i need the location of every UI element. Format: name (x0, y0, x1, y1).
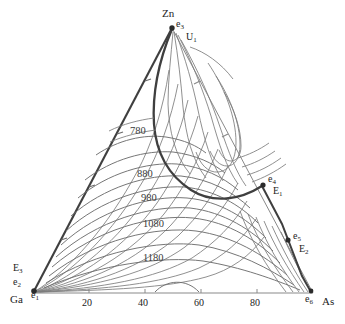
axis-tick-label-40: 40 (138, 298, 148, 308)
point-label-E1: E1 (273, 186, 283, 198)
point-label-E2: E2 (299, 244, 309, 256)
point-label-e6: e6 (305, 294, 313, 306)
invariant-point-markers (31, 25, 313, 294)
ternary-phase-diagram: Zn e3 U1 E3 e2 Ga e1 e4 E1 e5 E2 e6 As 7… (0, 0, 345, 324)
point-label-e4: e4 (268, 174, 276, 186)
isotherm-label-980: 980 (141, 193, 157, 204)
isotherm-880 (71, 176, 250, 216)
axis-ticks-bottom (89, 289, 257, 293)
isotherm-line (56, 208, 273, 257)
axis-tick-label-60: 60 (194, 298, 204, 308)
isotherm-base-bump (155, 282, 199, 292)
point-label-E3: E3 (13, 263, 23, 275)
isotherm-label-1180: 1180 (143, 253, 164, 264)
point-label-U1: U1 (186, 32, 197, 44)
corner-label-as: As (322, 296, 334, 307)
isotherm-line (35, 100, 188, 292)
apex-label-zn: Zn (162, 8, 174, 19)
diagram-canvas (0, 0, 345, 324)
liquidus-boundary (154, 29, 262, 199)
marker-e5-E2 (285, 237, 290, 242)
point-label-e2: e2 (13, 277, 21, 289)
marker-e3 (169, 25, 174, 30)
isotherm-label-780: 780 (130, 126, 146, 137)
isotherm-label-880: 880 (137, 169, 153, 180)
axis-tick-label-20: 20 (82, 298, 92, 308)
marker-e4-E1 (260, 182, 265, 187)
boundary-e3-to-E1 (154, 29, 262, 199)
isotherm-label-1080: 1080 (143, 219, 164, 230)
point-label-e5: e5 (293, 231, 301, 243)
point-label-e1: e1 (31, 290, 39, 302)
corner-label-ga: Ga (10, 294, 23, 305)
point-label-e3: e3 (176, 19, 184, 31)
isotherm-loop (196, 63, 236, 172)
isotherms-zn-field (109, 32, 286, 186)
isotherm-line (242, 151, 275, 167)
isotherm-line (247, 158, 281, 175)
isotherm-line (36, 149, 218, 292)
axis-tick-label-80: 80 (250, 298, 260, 308)
triangle-edges (33, 28, 313, 293)
isotherm-line (238, 143, 269, 158)
